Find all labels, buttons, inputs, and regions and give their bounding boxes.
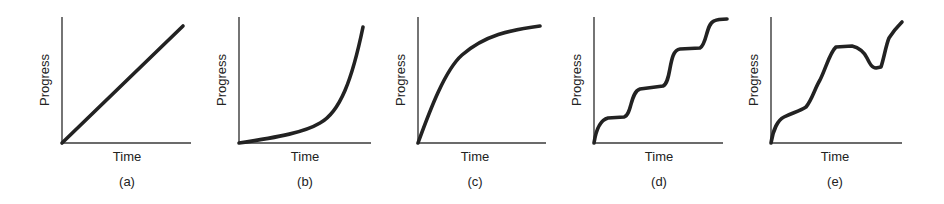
x-axis-label: Time: [645, 149, 673, 164]
panel-caption: (a): [119, 174, 135, 189]
panel-b: Progress Time (b): [214, 17, 371, 189]
y-axis-label: Progress: [214, 53, 229, 106]
panel-caption: (b): [297, 174, 313, 189]
panel-caption: (d): [651, 174, 667, 189]
progress-curve-irregular: [771, 22, 902, 143]
y-axis-label: Progress: [746, 53, 761, 106]
panel-caption: (e): [827, 174, 843, 189]
panel-a: Progress Time (a): [37, 17, 191, 189]
progress-curve-exponential: [239, 27, 363, 143]
x-axis-label: Time: [821, 149, 849, 164]
y-axis-label: Progress: [393, 53, 408, 106]
progress-curve-linear: [62, 26, 183, 143]
y-axis-label: Progress: [569, 53, 584, 106]
x-axis-label: Time: [461, 149, 489, 164]
progress-curves-figure: Progress Time (a) Progress Time (b) Prog…: [0, 0, 944, 204]
x-axis-label: Time: [113, 149, 141, 164]
panel-d: Progress Time (d): [569, 17, 727, 189]
y-axis-label: Progress: [37, 53, 52, 106]
x-axis-label: Time: [291, 149, 319, 164]
progress-curve-saturating: [418, 26, 540, 143]
panel-e: Progress Time (e): [746, 17, 902, 189]
progress-curve-staircase: [594, 19, 727, 143]
panel-c: Progress Time (c): [393, 17, 546, 189]
panel-caption: (c): [467, 174, 482, 189]
